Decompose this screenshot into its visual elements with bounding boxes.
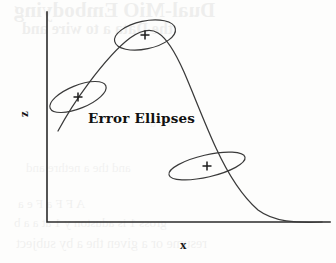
scanned-figure-page: Dual-MiO Embodying the Data a to wire an… xyxy=(0,0,336,263)
figure-caption-error-ellipses: Error Ellipses xyxy=(88,110,195,126)
figure-canvas xyxy=(0,0,336,263)
error-ellipse-right xyxy=(167,147,248,186)
error-ellipse-right-center-marker xyxy=(203,162,212,171)
error-ellipse-top xyxy=(112,15,178,55)
y-axis-label: z xyxy=(16,111,32,117)
x-axis-label: x xyxy=(180,237,187,253)
response-curve xyxy=(58,31,322,223)
